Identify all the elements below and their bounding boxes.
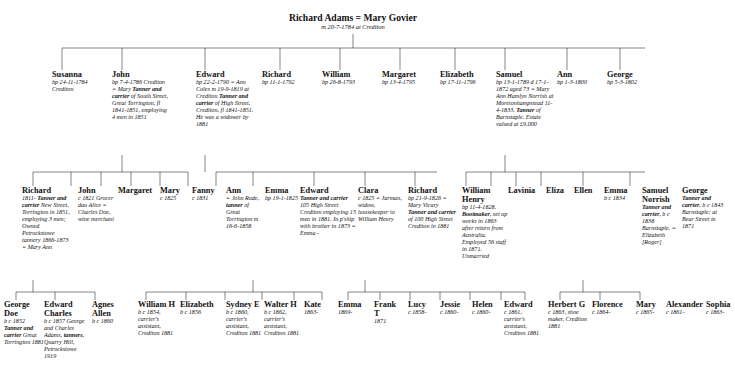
person-detail: bp 19-1-1825: [265, 195, 299, 202]
person-detail: Tanner and carrier, b c 1843 Barnstaple;…: [682, 195, 724, 230]
person-detail: bp 13-4-1795: [382, 79, 438, 86]
person-gen4-1: Edward Charles b c 1857 George and Charl…: [44, 300, 88, 360]
person-detail: bp 26-8-1793: [322, 79, 378, 86]
person-name: Frank T: [374, 300, 402, 318]
person-gen3-15: Samuel Norrish Tanner and carrier, b c 1…: [642, 186, 678, 246]
person-detail: b c 1860, carrier's assistant, Crediton …: [226, 309, 262, 337]
person-name: Elizabeth: [440, 70, 492, 79]
root-name: Richard Adams = Mary Govier: [233, 12, 473, 23]
person-name: Florence: [592, 300, 634, 309]
person-detail: c 1821 Grocer dau Alice = Charles Doe, w…: [78, 195, 118, 223]
person-detail: b c 1862, carrier's assistant, Crediton …: [264, 309, 300, 337]
person-detail: 1811- Tanner and carrier New Street, Tor…: [22, 195, 72, 251]
person-name: Edward Charles: [44, 300, 88, 318]
person-gen4-11: Jessie c 1860-: [440, 300, 470, 316]
person-gen4-8: Emma 1869-: [338, 300, 372, 316]
person-gen3-4: Fanny c 1831: [192, 186, 224, 202]
person-detail: c 1858-: [408, 309, 438, 316]
person-detail: bp 11-1-1792: [262, 79, 318, 86]
person-detail: bp 21-9-1826 = Mary Vicary Tanner and ca…: [408, 195, 458, 230]
person-detail: bp 5-3-1802: [607, 79, 655, 86]
person-name: Emma: [338, 300, 372, 309]
person-detail: c 1860-: [440, 309, 470, 316]
person-gen4-2: Agnes Allen b c 1860: [92, 300, 132, 325]
person-detail: c 1860-: [472, 309, 502, 316]
person-name: Richard: [262, 70, 318, 79]
person-name: Sydney E: [226, 300, 262, 309]
person-name: Helen: [472, 300, 502, 309]
person-name: Sophia: [706, 300, 735, 309]
person-gen4-5: Sydney E b c 1860, carrier's assistant, …: [226, 300, 262, 337]
person-gen3-8: Clara c 1825 = Jarman, widow, housekeepe…: [358, 186, 402, 223]
person-gen3-14: Emma b c 1834: [604, 186, 638, 202]
person-name: Kate: [304, 300, 336, 309]
person-detail: b c 1834: [604, 195, 638, 202]
person-detail: c 1864-: [592, 309, 634, 316]
person-detail: 1869-: [338, 309, 372, 316]
person-name: John: [78, 186, 118, 195]
person-detail: c 1863, shoe maker, Crediton 1881: [548, 309, 588, 330]
person-gen3-1: John c 1821 Grocer dau Alice = Charles D…: [78, 186, 118, 223]
person-name: Eliza: [546, 186, 574, 195]
person-name: Mary: [636, 300, 666, 309]
person-name: Margaret: [118, 186, 160, 195]
person-name: William Henry: [462, 186, 508, 204]
person-gen2-9: George bp 5-3-1802: [607, 70, 655, 86]
person-name: George: [607, 70, 655, 79]
person-name: Richard: [22, 186, 72, 195]
person-name: Lavinia: [508, 186, 546, 195]
person-name: William H: [138, 300, 178, 309]
person-gen4-12: Helen c 1860-: [472, 300, 502, 316]
person-name: Edward: [300, 186, 356, 195]
person-name: Edward: [504, 300, 544, 309]
person-detail: c 1863-: [706, 309, 735, 316]
root-detail: m 20-7-1784 at Crediton: [233, 23, 473, 30]
person-gen4-6: Walter H b c 1862, carrier's assistant, …: [264, 300, 300, 337]
person-detail: b c 1860: [92, 318, 132, 325]
person-gen3-3: Mary c 1825: [160, 186, 192, 202]
person-gen4-16: Mary c 1865-: [636, 300, 666, 316]
person-gen4-13: Edward c 1861, carrier's assistant, Cred…: [504, 300, 544, 337]
person-gen2-4: William bp 26-8-1793: [322, 70, 378, 86]
person-name: Richard: [408, 186, 458, 195]
person-name: Jessie: [440, 300, 470, 309]
person-detail: c 1865-: [636, 309, 666, 316]
person-gen3-5: Ann = John Rude, tanner of Great Torring…: [226, 186, 262, 230]
person-detail: b c 1852 Tanner and carrier Great Torrin…: [4, 318, 44, 346]
person-name: Alexander: [666, 300, 708, 309]
person-name: Herbert G: [548, 300, 588, 309]
person-gen4-3: William H b c 1854, carrier's assistant,…: [138, 300, 178, 337]
person-gen4-0: George Doe b c 1852 Tanner and carrier G…: [4, 300, 44, 346]
person-gen2-1: John bp 7-4-1786 Crediton = Mary Tanner …: [112, 70, 170, 121]
person-gen4-18: Sophia c 1863-: [706, 300, 735, 316]
person-gen4-15: Florence c 1864-: [592, 300, 634, 316]
person-detail: b c 1854, carrier's assistant, Crediton …: [138, 309, 178, 337]
person-name: Susanna: [52, 70, 98, 79]
person-name: Fanny: [192, 186, 224, 195]
person-name: William: [322, 70, 378, 79]
person-name: Ellen: [574, 186, 602, 195]
person-gen4-9: Frank T 1871: [374, 300, 402, 325]
person-name: Ann: [557, 70, 603, 79]
person-detail: b c 1857 George and Charles Adams, tanne…: [44, 318, 88, 360]
person-gen3-11: Lavinia: [508, 186, 546, 195]
person-gen2-8: Ann bp 1-3-1800: [557, 70, 603, 86]
person-gen2-6: Elizabeth bp 17-11-1796: [440, 70, 492, 86]
person-detail: bp 24-11-1784 Crediton: [52, 79, 98, 93]
person-name: Emma: [604, 186, 638, 195]
person-detail: bp 13-1-1789 d 17-1-1872 aged 73 = Mary …: [496, 79, 554, 128]
person-name: Margaret: [382, 70, 438, 79]
person-gen4-7: Kate 1863-: [304, 300, 336, 316]
person-gen3-9: Richard bp 21-9-1826 = Mary Vicary Tanne…: [408, 186, 458, 230]
person-detail: bp 7-4-1786 Crediton = Mary Tanner and c…: [112, 79, 170, 121]
person-name: Samuel Norrish: [642, 186, 678, 204]
person-name: Walter H: [264, 300, 300, 309]
person-name: Mary: [160, 186, 192, 195]
person-detail: 1871: [374, 318, 402, 325]
person-detail: Tanner and carrier, b c 1838 Barnstaple.…: [642, 204, 678, 246]
person-gen2-5: Margaret bp 13-4-1795: [382, 70, 438, 86]
person-gen2-0: Susanna bp 24-11-1784 Crediton: [52, 70, 98, 93]
person-name: Agnes Allen: [92, 300, 132, 318]
person-name: Lucy: [408, 300, 438, 309]
